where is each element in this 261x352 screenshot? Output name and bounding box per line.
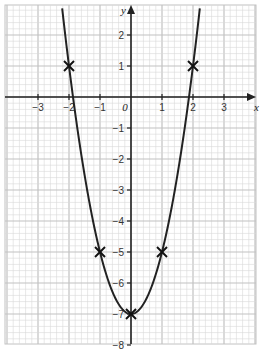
svg-text:−4: −4 [113, 216, 125, 227]
svg-text:0: 0 [122, 101, 128, 113]
svg-text:1: 1 [118, 61, 124, 72]
svg-text:−1: −1 [94, 102, 106, 113]
svg-text:−2: −2 [113, 154, 125, 165]
svg-text:−3: −3 [113, 185, 125, 196]
svg-text:2: 2 [118, 30, 124, 41]
parabola-chart: −3−2−1012321−1−2−3−4−5−6−7−8 x y [0, 0, 261, 352]
x-axis-label: x [253, 101, 259, 113]
svg-text:−8: −8 [113, 340, 125, 351]
svg-text:−3: −3 [32, 102, 44, 113]
y-axis-label: y [120, 4, 126, 16]
svg-text:−6: −6 [113, 278, 125, 289]
svg-text:2: 2 [190, 102, 196, 113]
svg-text:−5: −5 [113, 247, 125, 258]
svg-text:−1: −1 [113, 123, 125, 134]
svg-text:1: 1 [159, 102, 165, 113]
svg-text:3: 3 [221, 102, 227, 113]
